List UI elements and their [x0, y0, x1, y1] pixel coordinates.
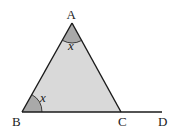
label-c: C — [118, 114, 127, 129]
label-b: B — [12, 114, 21, 129]
label-d: D — [158, 114, 167, 129]
angle-label-a: x — [67, 38, 74, 53]
label-a: A — [67, 7, 77, 22]
triangle-diagram: A B C D x x — [0, 0, 178, 132]
angle-label-b: x — [39, 90, 46, 105]
